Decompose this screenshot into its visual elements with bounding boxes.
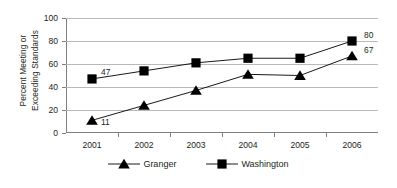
legend-label: Washington	[241, 159, 288, 169]
series-layer	[66, 18, 378, 133]
data-point-marker	[243, 54, 252, 63]
y-axis-tick-label: 0	[32, 129, 58, 138]
legend-item-washington[interactable]: Washington	[206, 158, 288, 170]
data-point-label: 67	[364, 46, 373, 55]
x-axis-tick-mark	[222, 133, 223, 137]
x-axis-tick-mark	[170, 133, 171, 137]
series-line	[92, 41, 352, 79]
square-icon	[206, 158, 238, 170]
x-axis-tick-label: 2001	[64, 141, 120, 150]
y-axis-tick-label: 60	[32, 60, 58, 69]
data-point-marker	[347, 36, 356, 45]
y-axis-tick-label: 40	[32, 83, 58, 92]
y-axis-tick-label: 20	[32, 106, 58, 115]
x-axis-tick-label: 2004	[220, 141, 276, 150]
x-axis-tick-label: 2002	[116, 141, 172, 150]
plot-area	[66, 18, 378, 133]
data-point-marker	[242, 69, 254, 79]
y-axis-tick-mark	[62, 133, 66, 134]
data-point-marker	[295, 54, 304, 63]
series-washington	[87, 36, 356, 83]
x-axis-tick-label: 2005	[272, 141, 328, 150]
y-axis-tick-label: 100	[32, 14, 58, 23]
data-point-marker	[139, 66, 148, 75]
legend-item-granger[interactable]: Granger	[108, 158, 176, 170]
data-point-marker	[191, 58, 200, 67]
x-axis-tick-mark	[326, 133, 327, 137]
x-axis-tick-label: 2003	[168, 141, 224, 150]
series-line	[92, 56, 352, 120]
line-chart: Percent Meeting or Exceeding Standards 0…	[0, 0, 397, 188]
series-granger	[86, 51, 358, 125]
data-point-label: 11	[101, 118, 110, 127]
data-point-marker	[86, 115, 98, 125]
data-point-marker	[138, 100, 150, 110]
data-point-marker	[87, 74, 96, 83]
x-axis-tick-mark	[274, 133, 275, 137]
y-axis-tick-label: 80	[32, 37, 58, 46]
x-axis-tick-mark	[118, 133, 119, 137]
chart-legend: GrangerWashington	[0, 158, 397, 170]
data-point-marker	[190, 85, 202, 95]
triangle-icon	[108, 158, 140, 170]
x-axis-tick-label: 2006	[324, 141, 380, 150]
legend-label: Granger	[143, 159, 176, 169]
data-point-label: 47	[101, 68, 110, 77]
y-axis-title-line1: Percent Meeting or	[18, 34, 28, 106]
data-point-label: 80	[364, 31, 373, 40]
data-point-marker	[346, 51, 358, 61]
